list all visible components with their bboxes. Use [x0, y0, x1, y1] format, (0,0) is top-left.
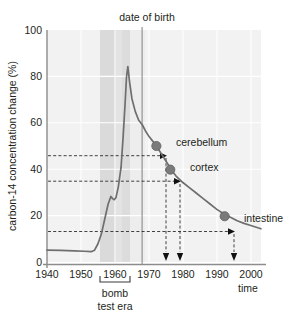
y-tick-label-60: 60 — [30, 116, 42, 128]
x-tick-label-1960: 1960 — [103, 268, 127, 280]
x-tick-label-2000: 2000 — [239, 268, 263, 280]
y-tick-label-100: 100 — [24, 24, 42, 36]
marker-intestine[interactable] — [220, 212, 229, 221]
bomb-test-era-label-line2: test era — [97, 300, 132, 312]
x-tick-label-1990: 1990 — [205, 268, 229, 280]
marker-cerebellum[interactable] — [152, 141, 161, 150]
y-tick-label-40: 40 — [30, 163, 42, 175]
bomb-test-era-label-line1: bomb — [102, 287, 128, 299]
annotation-label-cerebellum: cerebellum — [176, 136, 228, 148]
date-of-birth-label: date of birth — [119, 11, 175, 23]
chart-figure: carbon-14 concentration change (%) 100 8… — [0, 0, 306, 327]
x-tick-label-1940: 1940 — [35, 268, 59, 280]
marker-cortex[interactable] — [166, 165, 175, 174]
x-tick-label-1970: 1970 — [137, 268, 161, 280]
x-tick-label-1950: 1950 — [69, 268, 93, 280]
y-tick-label-80: 80 — [30, 70, 42, 82]
annotation-label-cortex: cortex — [190, 161, 219, 173]
y-axis-title: carbon-14 concentration change (%) — [6, 61, 18, 231]
x-axis-title: time — [238, 282, 258, 294]
y-tick-label-20: 20 — [30, 209, 42, 221]
y-tick-label-0: 0 — [36, 256, 42, 268]
carbon14-line-chart: carbon-14 concentration change (%) 100 8… — [0, 0, 306, 327]
x-tick-label-1980: 1980 — [171, 268, 195, 280]
annotation-label-intestine: intestine — [244, 212, 283, 224]
